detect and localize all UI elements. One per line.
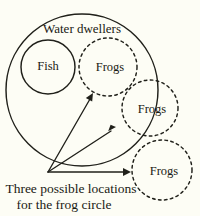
- pointer-arrow-inside: [48, 93, 93, 172]
- fish-label: Fish: [37, 59, 59, 73]
- venn-diagram-figure: Water dwellers Fish Frogs Frogs Frogs Th…: [0, 0, 200, 216]
- frogs-label-inside: Frogs: [96, 60, 125, 74]
- frogs-label-outside: Frogs: [150, 164, 179, 178]
- pointer-arrow-overlapping: [48, 125, 116, 172]
- pointer-arrow-outside: [48, 168, 131, 176]
- frogs-label-overlapping: Frogs: [138, 102, 167, 116]
- water-dwellers-label: Water dwellers: [43, 21, 121, 36]
- caption-line-2: for the frog circle: [17, 197, 112, 212]
- caption-line-1: Three possible locations: [5, 181, 136, 196]
- water-dwellers-circle: [6, 14, 158, 166]
- diagram-canvas: Water dwellers Fish Frogs Frogs Frogs Th…: [0, 0, 200, 216]
